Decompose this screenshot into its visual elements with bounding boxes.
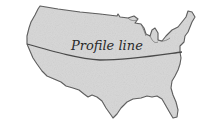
profile-line-label: Profile line bbox=[71, 38, 143, 53]
us-map bbox=[0, 0, 209, 129]
us-outline bbox=[27, 6, 195, 118]
